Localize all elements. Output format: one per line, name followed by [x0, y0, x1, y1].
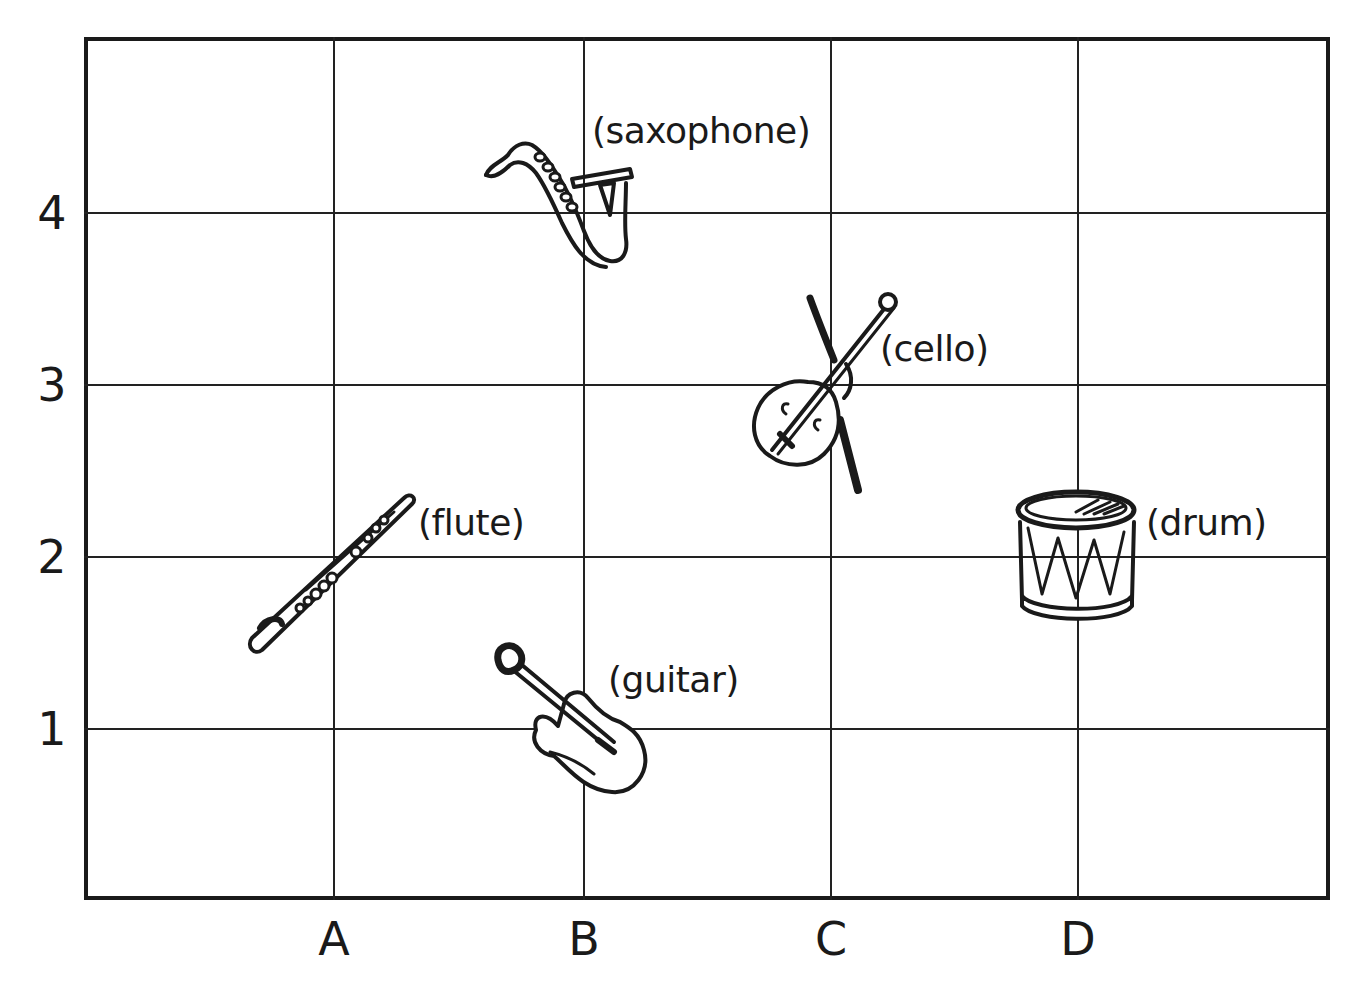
- cello-icon: [748, 290, 898, 500]
- grid-line-column-d: [1077, 37, 1079, 900]
- row-label-4: 4: [30, 190, 74, 236]
- column-label-d: D: [1048, 916, 1108, 962]
- grid-border: [84, 37, 1330, 900]
- cello-label: (cello): [880, 331, 989, 367]
- grid-line-column-a: [333, 37, 335, 900]
- row-label-3: 3: [30, 362, 74, 408]
- flute-icon: [246, 490, 421, 660]
- column-label-c: C: [801, 916, 861, 962]
- saxophone-icon: [480, 135, 640, 275]
- flute-label: (flute): [418, 505, 524, 541]
- row-label-1: 1: [30, 706, 74, 752]
- column-label-b: B: [554, 916, 614, 962]
- saxophone-label: (saxophone): [592, 113, 810, 149]
- column-label-a: A: [304, 916, 364, 962]
- grid-line-row-1: [84, 728, 1330, 730]
- drum-icon: [1014, 488, 1140, 624]
- row-label-2: 2: [30, 534, 74, 580]
- grid-line-row-4: [84, 212, 1330, 214]
- drum-label: (drum): [1146, 505, 1267, 541]
- guitar-label: (guitar): [608, 662, 739, 698]
- grid-line-row-3: [84, 384, 1330, 386]
